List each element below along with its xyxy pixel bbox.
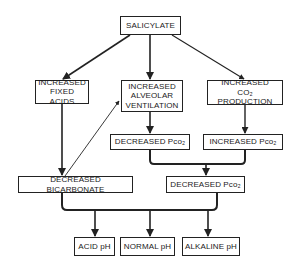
node-label: INCREASED FIXED ACIDS: [38, 78, 86, 107]
node-increased-co2-production: INCREASED CO₂ PRODUCTION: [207, 80, 283, 105]
node-label-line2: CO₂ PRODUCTION: [210, 88, 280, 107]
node-label: ACID pH: [78, 242, 110, 252]
node-decreased-pco2-top: DECREASED Pco₂: [110, 134, 190, 150]
node-label: ALKALINE pH: [185, 242, 237, 252]
node-decreased-bicarbonate: DECREASED BICARBONATE: [18, 176, 133, 193]
node-acid-ph: ACID pH: [74, 237, 115, 256]
node-increased-fixed-acids: INCREASED FIXED ACIDS: [35, 80, 89, 104]
node-alkaline-ph: ALKALINE pH: [182, 237, 240, 256]
node-label: SALICYLATE: [126, 21, 175, 31]
node-label: INCREASED Pco₂: [209, 137, 276, 147]
node-label: DECREASED BICARBONATE: [21, 175, 130, 194]
node-normal-ph: NORMAL pH: [120, 237, 175, 256]
node-increased-pco2: INCREASED Pco₂: [203, 134, 283, 150]
node-decreased-pco2-bottom: DECREASED Pco₂: [166, 176, 245, 193]
node-label: DECREASED Pco₂: [170, 180, 240, 190]
flowchart: SALICYLATE INCREASED FIXED ACIDS INCREAS…: [0, 0, 300, 274]
node-label: NORMAL pH: [124, 242, 171, 252]
node-salicylate: SALICYLATE: [120, 16, 181, 35]
node-label: DECREASED Pco₂: [115, 137, 185, 147]
node-label: INCREASED ALVEOLAR VENTILATION: [126, 82, 179, 111]
node-increased-alveolar-ventilation: INCREASED ALVEOLAR VENTILATION: [121, 80, 183, 112]
node-label-line1: INCREASED: [221, 78, 269, 88]
